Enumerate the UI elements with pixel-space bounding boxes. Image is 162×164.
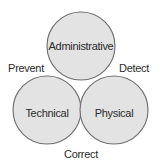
outer-label-detect: Detect bbox=[119, 63, 149, 74]
venn-circles-graphic bbox=[0, 0, 162, 164]
outer-label-prevent: Prevent bbox=[8, 63, 44, 74]
circle-label-administrative: Administrative bbox=[49, 41, 114, 52]
circle-label-technical: Technical bbox=[25, 108, 68, 119]
venn-diagram: Administrative Technical Physical Preven… bbox=[0, 0, 162, 164]
circle-label-physical: Physical bbox=[95, 108, 134, 119]
outer-label-correct: Correct bbox=[64, 149, 98, 160]
